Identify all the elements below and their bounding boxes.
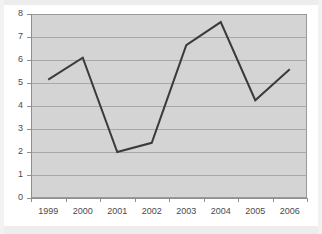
y-tick-label-2: 2 <box>3 147 23 156</box>
y-tick-label-8: 8 <box>3 9 23 18</box>
chart-canvas <box>0 0 322 234</box>
y-tick-label-3: 3 <box>3 124 23 133</box>
x-tick-label-2000: 2000 <box>66 207 100 216</box>
x-tick-label-2002: 2002 <box>135 207 169 216</box>
y-tick-label-1: 1 <box>3 170 23 179</box>
x-tick-label-2004: 2004 <box>204 207 238 216</box>
x-tick-label-2003: 2003 <box>169 207 203 216</box>
y-tick-label-5: 5 <box>3 78 23 87</box>
y-tick-label-4: 4 <box>3 101 23 110</box>
x-tick-label-2005: 2005 <box>238 207 272 216</box>
x-tick-label-2006: 2006 <box>273 207 307 216</box>
y-tick-label-0: 0 <box>3 193 23 202</box>
y-tick-label-7: 7 <box>3 32 23 41</box>
y-tick-label-6: 6 <box>3 55 23 64</box>
x-tick-label-2001: 2001 <box>100 207 134 216</box>
gridlines <box>32 38 306 176</box>
chart-figure: 012345678 199920002001200220032004200520… <box>0 0 322 234</box>
tick-marks <box>27 15 308 203</box>
data-line-series-1 <box>48 22 290 152</box>
x-tick-label-1999: 1999 <box>31 207 65 216</box>
